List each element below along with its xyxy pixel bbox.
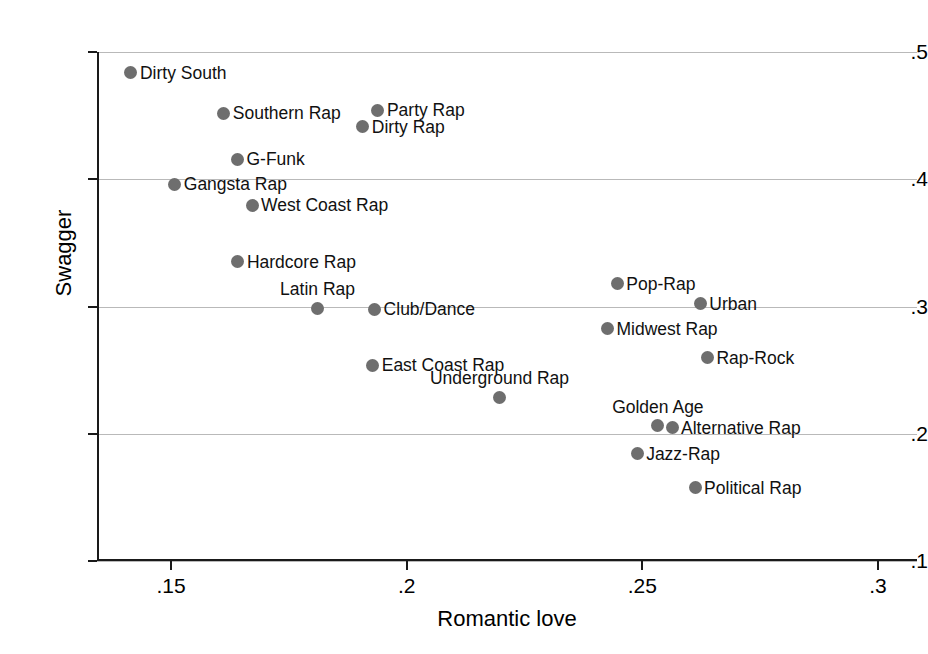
data-point-label: Club/Dance [384,300,475,318]
x-tick-label: .15 [131,575,211,597]
gridline-y [97,561,917,562]
data-point-marker [231,153,244,166]
data-point-marker [601,322,614,335]
data-point-marker [666,421,679,434]
data-point-marker [246,199,259,212]
data-point-marker [368,303,381,316]
data-point-label: Golden Age [612,398,703,416]
x-tick-mark [877,561,879,570]
x-axis-title: Romantic love [97,606,917,632]
data-point-label: Latin Rap [280,280,355,298]
data-point-label: Gangsta Rap [184,175,287,193]
data-point-label: Rap-Rock [716,349,794,367]
data-point-marker [217,107,230,120]
data-point-marker [366,359,379,372]
scatter-chart: Swagger .1.2.3.4.5 .15.2.25.3 Dirty Sout… [0,0,928,654]
data-point-marker [371,104,384,117]
data-point-label: Southern Rap [233,104,341,122]
data-point-label: G-Funk [246,150,304,168]
data-point-label: Alternative Rap [681,419,801,437]
y-tick-mark [88,51,97,53]
y-axis-title-text: Swagger [51,210,77,297]
x-tick-mark [641,561,643,570]
data-point-label: Dirty South [140,64,227,82]
data-point-marker [168,178,181,191]
data-point-marker [701,351,714,364]
data-point-label: Underground Rap [430,369,569,387]
x-tick-mark [406,561,408,570]
x-tick-label: .2 [367,575,447,597]
data-point-marker [689,481,702,494]
data-point-label: Hardcore Rap [247,253,356,271]
y-tick-mark [88,306,97,308]
x-tick-label: .25 [602,575,682,597]
data-point-label: Political Rap [704,479,801,497]
data-point-label: West Coast Rap [261,196,388,214]
data-point-marker [631,447,644,460]
data-point-marker [311,302,324,315]
y-tick-mark [88,560,97,562]
data-point-label: Jazz-Rap [646,445,720,463]
x-tick-label: .3 [838,575,918,597]
data-point-label: Pop-Rap [626,275,695,293]
data-point-label: Urban [709,295,757,313]
data-point-label: Dirty Rap [372,118,445,136]
y-tick-mark [88,433,97,435]
data-point-marker [493,391,506,404]
y-tick-mark [88,178,97,180]
x-tick-mark [170,561,172,570]
data-point-label: Midwest Rap [616,320,717,338]
